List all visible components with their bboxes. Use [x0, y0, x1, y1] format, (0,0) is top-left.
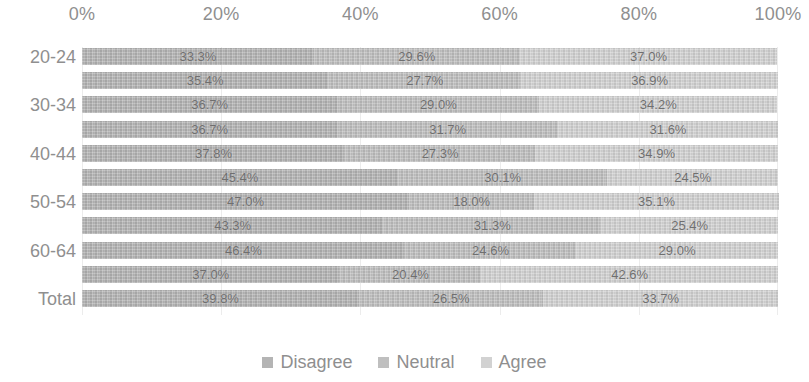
data-label: 31.6%: [650, 123, 687, 136]
bar-segment-disagree[interactable]: 45.4%: [82, 169, 398, 186]
category-axis-label: 50-54: [0, 194, 76, 211]
bar-segment-neutral[interactable]: 31.7%: [337, 121, 558, 138]
bar-row[interactable]: 36.7%29.0%34.2%: [82, 96, 778, 113]
x-axis-tick-label: 0%: [69, 4, 95, 25]
bar-segment-agree[interactable]: 33.7%: [543, 290, 778, 307]
bar-segment-disagree[interactable]: 43.3%: [82, 217, 383, 234]
data-label: 36.7%: [191, 98, 228, 111]
data-label: 39.8%: [202, 292, 239, 305]
data-label: 42.6%: [611, 268, 648, 281]
data-label: 46.4%: [225, 244, 262, 257]
bar-segment-disagree[interactable]: 46.4%: [82, 242, 405, 259]
bar-segment-neutral[interactable]: 29.6%: [314, 48, 520, 65]
bar-segment-agree[interactable]: 37.0%: [520, 48, 778, 65]
x-axis-tick-label: 60%: [481, 4, 518, 25]
bar-row[interactable]: 43.3%31.3%25.4%: [82, 217, 778, 234]
bar-segment-agree[interactable]: 31.6%: [558, 121, 778, 138]
square-swatch: [481, 357, 492, 368]
legend-label: Agree: [499, 352, 547, 373]
bar-segment-neutral[interactable]: 20.4%: [340, 266, 482, 283]
bar-segment-disagree[interactable]: 37.8%: [82, 145, 345, 162]
bar-segment-disagree[interactable]: 35.4%: [82, 72, 328, 89]
category-axis-label: Total: [0, 291, 76, 308]
data-label: 33.7%: [642, 292, 679, 305]
bar-segment-neutral[interactable]: 18.0%: [409, 193, 534, 210]
bar-segment-disagree[interactable]: 37.0%: [82, 266, 340, 283]
data-label: 29.0%: [420, 98, 457, 111]
data-label: 29.0%: [659, 244, 696, 257]
data-label: 34.2%: [640, 98, 677, 111]
x-axis-tick-label: 40%: [342, 4, 379, 25]
bar-segment-neutral[interactable]: 29.0%: [337, 96, 539, 113]
legend-label: Neutral: [396, 352, 454, 373]
data-label: 31.7%: [429, 123, 466, 136]
bar-row[interactable]: 33.3%29.6%37.0%: [82, 48, 778, 65]
category-axis-label: 60-64: [0, 243, 76, 260]
data-label: 20.4%: [392, 268, 429, 281]
legend-item-neutral[interactable]: Neutral: [378, 352, 454, 373]
data-label: 30.1%: [484, 171, 521, 184]
bar-segment-neutral[interactable]: 27.3%: [345, 145, 535, 162]
data-label: 24.6%: [472, 244, 509, 257]
data-label: 27.7%: [406, 74, 443, 87]
bar-segment-agree[interactable]: 29.0%: [576, 242, 778, 259]
data-label: 18.0%: [453, 195, 490, 208]
data-label: 27.3%: [422, 147, 459, 160]
legend-label: Disagree: [280, 352, 352, 373]
data-label: 35.4%: [187, 74, 224, 87]
bar-segment-neutral[interactable]: 27.7%: [328, 72, 521, 89]
data-label: 29.6%: [398, 50, 435, 63]
category-axis-label: 30-34: [0, 97, 76, 114]
bar-segment-disagree[interactable]: 47.0%: [82, 193, 409, 210]
chart-legend: DisagreeNeutralAgree: [0, 352, 809, 373]
data-label: 43.3%: [214, 219, 251, 232]
bar-segment-disagree[interactable]: 36.7%: [82, 96, 337, 113]
bar-row[interactable]: 46.4%24.6%29.0%: [82, 242, 778, 259]
bar-segment-agree[interactable]: 42.6%: [481, 266, 777, 283]
bar-segment-disagree[interactable]: 39.8%: [82, 290, 359, 307]
bar-segment-neutral[interactable]: 31.3%: [383, 217, 601, 234]
x-axis: 0%20%40%60%80%100%: [82, 4, 778, 30]
bar-segment-neutral[interactable]: 24.6%: [405, 242, 576, 259]
square-swatch: [378, 357, 389, 368]
bar-segment-disagree[interactable]: 33.3%: [82, 48, 314, 65]
data-label: 45.4%: [222, 171, 259, 184]
bar-segment-agree[interactable]: 36.9%: [521, 72, 778, 89]
data-label: 47.0%: [227, 195, 264, 208]
data-label: 33.3%: [179, 50, 216, 63]
category-axis: 20-2430-3440-4450-5460-64Total: [0, 47, 76, 315]
bar-segment-neutral[interactable]: 30.1%: [398, 169, 607, 186]
data-label: 36.7%: [191, 123, 228, 136]
bar-row[interactable]: 45.4%30.1%24.5%: [82, 169, 778, 186]
data-label: 26.5%: [433, 292, 470, 305]
stacked-bar-chart: 0%20%40%60%80%100% 20-2430-3440-4450-546…: [0, 0, 809, 382]
bar-segment-agree[interactable]: 34.9%: [535, 145, 778, 162]
legend-item-agree[interactable]: Agree: [481, 352, 547, 373]
data-label: 25.4%: [671, 219, 708, 232]
bar-segment-disagree[interactable]: 36.7%: [82, 121, 337, 138]
bar-segment-agree[interactable]: 35.1%: [534, 193, 778, 210]
bar-row[interactable]: 39.8%26.5%33.7%: [82, 290, 778, 307]
bar-row[interactable]: 47.0%18.0%35.1%: [82, 193, 778, 210]
plot-area: 33.3%29.6%37.0%35.4%27.7%36.9%36.7%29.0%…: [82, 47, 778, 315]
x-axis-tick-label: 20%: [203, 4, 240, 25]
bar-row[interactable]: 37.8%27.3%34.9%: [82, 145, 778, 162]
x-axis-tick-label: 80%: [620, 4, 657, 25]
data-label: 36.9%: [631, 74, 668, 87]
bar-segment-agree[interactable]: 34.2%: [539, 96, 777, 113]
bar-segment-agree[interactable]: 24.5%: [607, 169, 778, 186]
legend-item-disagree[interactable]: Disagree: [262, 352, 352, 373]
data-label: 37.0%: [192, 268, 229, 281]
data-label: 24.5%: [674, 171, 711, 184]
data-label: 34.9%: [638, 147, 675, 160]
bar-segment-neutral[interactable]: 26.5%: [359, 290, 543, 307]
bar-row[interactable]: 36.7%31.7%31.6%: [82, 121, 778, 138]
bar-row[interactable]: 35.4%27.7%36.9%: [82, 72, 778, 89]
bar-segment-agree[interactable]: 25.4%: [601, 217, 778, 234]
x-axis-tick-label: 100%: [755, 4, 802, 25]
bar-row[interactable]: 37.0%20.4%42.6%: [82, 266, 778, 283]
data-label: 37.8%: [195, 147, 232, 160]
data-label: 31.3%: [474, 219, 511, 232]
data-label: 35.1%: [638, 195, 675, 208]
square-swatch: [262, 357, 273, 368]
